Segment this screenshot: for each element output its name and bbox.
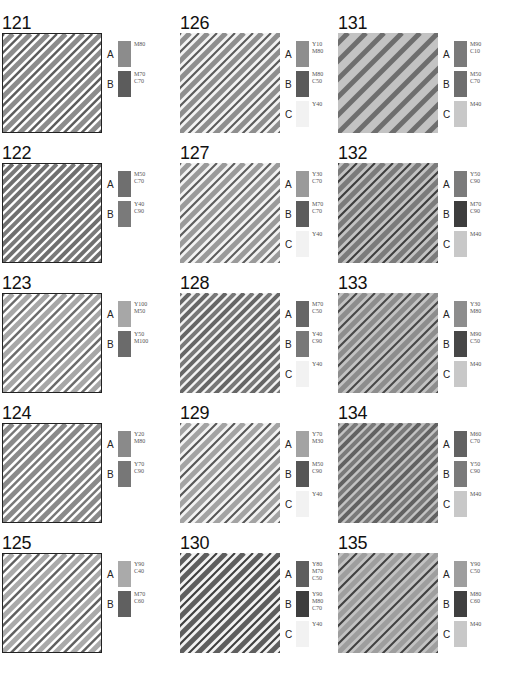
swatch-card: 130AY80 M70 C50BY90 M80 C70CY40	[180, 534, 330, 659]
swatch-label-c: C	[285, 629, 292, 640]
swatch-label-c: C	[285, 369, 292, 380]
cmyk-code: Y100 M50	[134, 301, 147, 315]
cmyk-code: M40	[470, 361, 481, 368]
swatch-label-a: A	[285, 179, 292, 190]
color-chip	[454, 41, 467, 67]
cmyk-code: M40	[470, 101, 481, 108]
stripe-pattern	[338, 423, 438, 523]
swatch-card: 128AM70 C50BY40 C90CY40	[180, 274, 330, 399]
color-chip	[454, 461, 467, 487]
cmyk-code: M80 C50	[312, 71, 323, 85]
swatch-label-b: B	[443, 209, 450, 220]
swatch-label-b: B	[285, 209, 292, 220]
swatch-label-b: B	[285, 339, 292, 350]
color-chip	[296, 331, 309, 357]
swatch-label-c: C	[443, 499, 450, 510]
cmyk-code: Y10 M80	[312, 41, 323, 55]
color-chip	[296, 591, 309, 617]
stripe-pattern	[180, 163, 280, 263]
color-chip	[296, 621, 309, 647]
swatch-label-b: B	[285, 469, 292, 480]
color-chip	[296, 71, 309, 97]
color-chip	[454, 361, 467, 387]
swatch-label-c: C	[443, 629, 450, 640]
cmyk-code: Y70 C90	[134, 461, 144, 475]
color-chip	[118, 431, 131, 457]
color-chip	[454, 231, 467, 257]
swatch-card: 131AM90 C10BM50 C70CM40	[338, 14, 488, 139]
color-chip	[454, 201, 467, 227]
cmyk-code: M50 C70	[470, 71, 481, 85]
stripe-pattern	[2, 553, 102, 653]
swatch-label-a: A	[107, 49, 114, 60]
swatch-number: 132	[338, 144, 367, 162]
cmyk-code: M90 C50	[470, 331, 481, 345]
cmyk-code: Y40	[312, 361, 322, 368]
swatch-number: 124	[2, 404, 31, 422]
cmyk-code: M70 C90	[470, 201, 481, 215]
color-chip	[296, 431, 309, 457]
cmyk-code: M80 C60	[470, 591, 481, 605]
cmyk-code: Y40	[312, 101, 322, 108]
swatch-label-a: A	[107, 179, 114, 190]
swatch-label-c: C	[285, 239, 292, 250]
swatch-number: 133	[338, 274, 367, 292]
cmyk-code: M90 C10	[470, 41, 481, 55]
swatch-label-c: C	[285, 109, 292, 120]
color-chip	[118, 331, 131, 357]
cmyk-code: Y40 C90	[134, 201, 144, 215]
color-chip	[454, 171, 467, 197]
swatch-number: 134	[338, 404, 367, 422]
swatch-label-a: A	[443, 569, 450, 580]
color-chip	[296, 231, 309, 257]
swatch-card: 123AY100 M50BY50 M100	[2, 274, 152, 399]
cmyk-code: Y40 C90	[312, 331, 322, 345]
cmyk-code: M70 C60	[134, 591, 145, 605]
stripe-pattern	[338, 553, 438, 653]
swatch-label-a: A	[443, 49, 450, 60]
stripe-pattern	[180, 423, 280, 523]
swatch-number: 129	[180, 404, 209, 422]
cmyk-code: Y80 M70 C50	[312, 561, 323, 582]
swatch-label-c: C	[285, 499, 292, 510]
cmyk-code: M60 C70	[470, 431, 481, 445]
swatch-card: 135AY90 C50BM80 C60CM40	[338, 534, 488, 659]
color-chip	[296, 201, 309, 227]
cmyk-code: M80	[134, 41, 145, 48]
color-chip	[118, 461, 131, 487]
swatch-card: 124AY20 M80BY70 C90	[2, 404, 152, 529]
cmyk-code: Y50 C90	[470, 171, 480, 185]
color-chip	[296, 171, 309, 197]
color-chip	[454, 101, 467, 127]
cmyk-code: Y50 C90	[470, 461, 480, 475]
stripe-pattern	[338, 33, 438, 133]
color-chip	[296, 101, 309, 127]
swatch-label-c: C	[443, 369, 450, 380]
swatch-label-a: A	[107, 309, 114, 320]
swatch-label-b: B	[285, 79, 292, 90]
color-chip	[296, 41, 309, 67]
swatch-card: 129AY70 M30BM50 C90CY40	[180, 404, 330, 529]
swatch-label-b: B	[107, 469, 114, 480]
swatch-card: 134AM60 C70BY50 C90CM40	[338, 404, 488, 529]
swatch-label-b: B	[107, 339, 114, 350]
swatch-label-c: C	[443, 239, 450, 250]
swatch-card: 132AY50 C90BM70 C90CM40	[338, 144, 488, 269]
swatch-card: 133AY30 M80BM90 C50CM40	[338, 274, 488, 399]
swatch-label-a: A	[443, 309, 450, 320]
swatch-label-b: B	[107, 209, 114, 220]
color-chip	[118, 561, 131, 587]
cmyk-code: Y40	[312, 621, 322, 628]
swatch-card: 122AM50 C70BY40 C90	[2, 144, 152, 269]
cmyk-code: M70 C70	[134, 71, 145, 85]
swatch-number: 122	[2, 144, 31, 162]
cmyk-code: Y40	[312, 231, 322, 238]
stripe-pattern	[180, 553, 280, 653]
color-chip	[296, 561, 309, 587]
cmyk-code: M70 C50	[312, 301, 323, 315]
color-chip	[118, 71, 131, 97]
stripe-pattern	[180, 33, 280, 133]
color-chip	[454, 431, 467, 457]
swatch-label-b: B	[107, 79, 114, 90]
cmyk-code: Y90 M80 C70	[312, 591, 323, 612]
